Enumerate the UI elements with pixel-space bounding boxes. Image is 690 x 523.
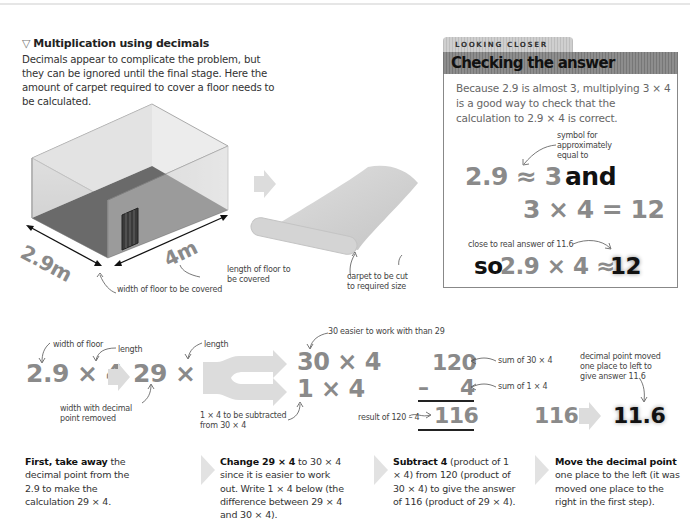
minus-sign: – [418, 375, 429, 400]
eq3-sub-note-line1: 1 × 4 to be subtracted [200, 411, 286, 421]
sum-30x4-note: sum of 30 × 4 [498, 356, 552, 366]
symbol-note-line3: equal to [557, 151, 588, 161]
checking-answer-heading: Checking the answer [443, 52, 678, 74]
equation-1-times-4: 1 × 4 [297, 375, 365, 403]
check-equation: 3 × 4 = 12 [523, 195, 664, 224]
symbol-note-line1: symbol for [557, 131, 597, 141]
final-approx-result: 12 [610, 253, 641, 279]
carpet-annotation-line1: carpet to be cut [347, 272, 408, 282]
eq2-removed-note-line1: width with decimal [60, 404, 132, 414]
step-2-bold: Change 29 × 4 [220, 456, 295, 467]
equation-30-times-4: 30 × 4 [297, 348, 381, 376]
step-3: Subtract 4 (product of 1 × 4) from 120 (… [393, 455, 518, 508]
looking-closer-tab: LOOKING CLOSER [443, 37, 573, 52]
final-note-line2: one place to left to [580, 362, 652, 372]
triangle-down-icon: ▽ [22, 37, 30, 50]
step-1-bold: First, take away [25, 456, 108, 467]
section-title: ▽Multiplication using decimals [22, 37, 209, 50]
length-annotation-line2: be covered [227, 275, 270, 285]
eq3-sub-arrow [286, 400, 308, 422]
final-answer-11-6: 11.6 [613, 403, 665, 428]
close-note: close to real answer of 11.6 [468, 240, 573, 250]
subtraction-note-arrows [466, 355, 498, 415]
right-arrow-icon [579, 402, 601, 430]
final-from-116: 116 [534, 403, 578, 428]
eq2-removed-arrow [138, 383, 158, 405]
room-illustration [20, 100, 240, 270]
fork-arrow-icon [203, 350, 293, 410]
carpet-roll-illustration [248, 155, 428, 265]
result-note-arrow [408, 410, 434, 422]
step-4-bold: Move the decimal point [555, 456, 676, 467]
eq3-sub-note-line2: from 30 × 4 [200, 421, 246, 431]
so-word: so [474, 253, 503, 279]
chevron-right-icon [374, 455, 388, 485]
step-2: Change 29 × 4 to 30 × 4 since it is easi… [220, 455, 345, 521]
eq2-removed-note-line2: point removed [60, 414, 116, 424]
step-4: Move the decimal point one place to the … [555, 455, 685, 508]
approx-equation: 2.9 ≈ 3 [465, 162, 562, 191]
final-approx-expression: 2.9 × 4 ≈ [500, 253, 615, 279]
eq3-top-note: 30 easier to work with than 29 [328, 327, 445, 337]
top-divider [0, 3, 690, 5]
width-annotation: width of floor to be covered [117, 285, 222, 295]
step-3-bold: Subtract 4 [393, 456, 447, 467]
symbol-note-line2: approximately [557, 141, 612, 151]
length-annotation-line1: length of floor to [227, 265, 290, 275]
looking-closer-text: Because 2.9 is almost 3, multiplying 3 ×… [456, 81, 671, 126]
chevron-right-icon [201, 455, 215, 485]
sum-1x4-note: sum of 1 × 4 [498, 382, 547, 392]
right-arrow-icon [108, 363, 130, 391]
section-title-text: Multiplication using decimals [33, 37, 209, 50]
final-note-line1: decimal point moved [580, 352, 661, 362]
final-note-arrow [636, 377, 650, 405]
subtraction-underline [418, 429, 474, 431]
and-word: and [565, 162, 616, 191]
carpet-annotation-line2: to required size [347, 282, 406, 292]
close-note-arrow [572, 238, 614, 254]
step-4-text: one place to the left (it was moved one … [555, 469, 680, 507]
chevron-right-icon [535, 455, 549, 485]
step-1: First, take away the decimal point from … [25, 455, 143, 508]
